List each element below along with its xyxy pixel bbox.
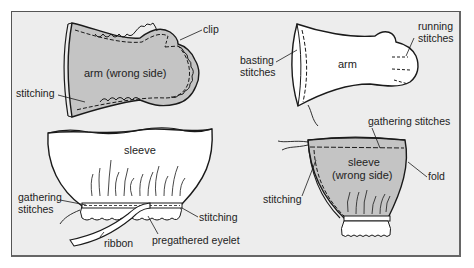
ribbon-label: ribbon: [104, 237, 133, 249]
sleeve-ws-label-2: (wrong side): [332, 169, 393, 181]
sleeve-shape: [48, 129, 212, 206]
fold-label: fold: [428, 170, 445, 182]
sleeve-label: sleeve: [124, 144, 156, 156]
stitching-label-bl: stitching: [199, 211, 238, 223]
arm-label: arm: [338, 58, 357, 70]
stitching-label-tl: stitching: [16, 87, 55, 99]
panel-sleeve: sleeve gathering stitches stitching ribb…: [18, 128, 240, 249]
cuff-band: [344, 216, 390, 221]
clip-leader: [180, 30, 202, 40]
panel-arm: arm basting stitches running stitches: [240, 20, 454, 126]
clip-label: clip: [203, 23, 219, 35]
stitching-leader-br: [302, 160, 316, 196]
sleeve-ws-label-1: sleeve: [348, 156, 380, 168]
running-label-2: stitches: [418, 32, 454, 44]
panel-sleeve-wrong-side: sleeve (wrong side) gathering stitches f…: [263, 115, 450, 237]
gathering-thread: [60, 210, 80, 224]
basting-label-2: stitches: [240, 66, 276, 78]
eyelet-label: pregathered eyelet: [152, 234, 240, 246]
panel-arm-wrong-side: arm (wrong side) clip stitching: [16, 23, 219, 117]
stitching-label-br: stitching: [263, 193, 302, 205]
running-label-1: running: [418, 20, 453, 32]
sewing-diagram: arm (wrong side) clip stitching arm bast…: [0, 0, 474, 268]
gathering-label-br: gathering stitches: [368, 115, 450, 127]
cuff-eyelet-ruffle: [341, 221, 390, 237]
basting-label-1: basting: [240, 54, 274, 66]
stitching-leader-bl: [182, 208, 198, 217]
gathering-label-bl-1: gathering: [18, 191, 62, 203]
thread-ends: [278, 141, 308, 150]
arm-wrong-side-label: arm (wrong side): [84, 67, 167, 79]
gathering-label-bl-2: stitches: [18, 203, 54, 215]
fold-leader: [408, 162, 427, 177]
thread-end: [308, 105, 318, 126]
